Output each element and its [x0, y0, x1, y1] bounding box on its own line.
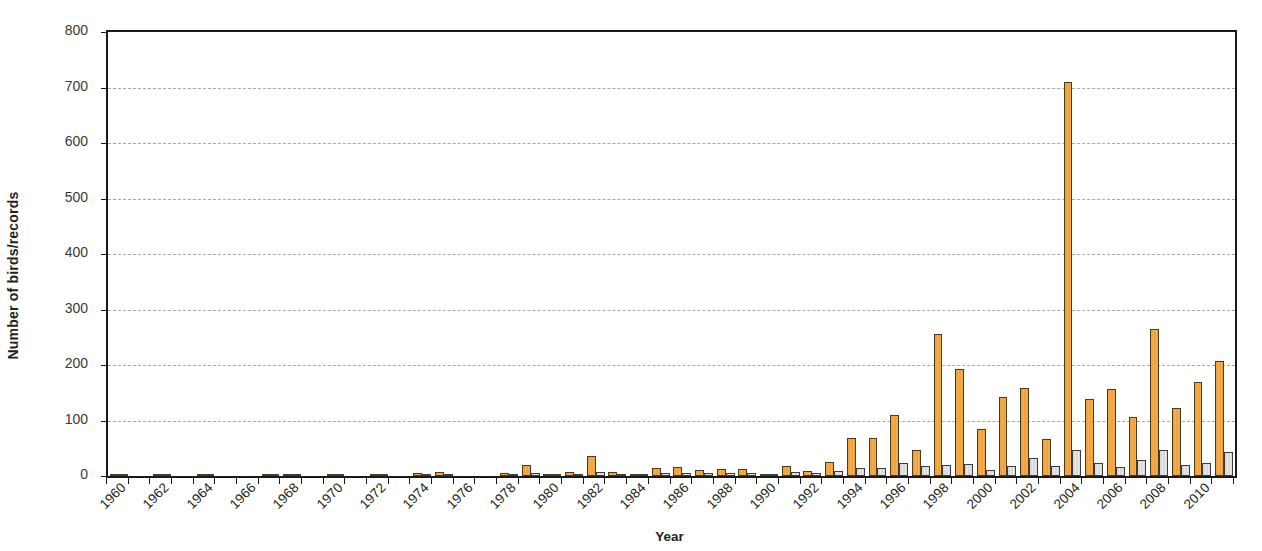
- bar: [1181, 465, 1190, 476]
- x-axis-tick-label: 1972: [357, 480, 389, 512]
- bar: [552, 474, 561, 476]
- bar: [531, 473, 540, 476]
- bar: [119, 474, 128, 476]
- bar: [769, 474, 778, 476]
- bar: [738, 469, 747, 476]
- bar: [1150, 329, 1159, 476]
- y-axis-tick: [101, 310, 108, 311]
- x-axis-tick-label: 1982: [573, 480, 605, 512]
- bar: [1172, 408, 1181, 476]
- bar: [336, 474, 345, 476]
- y-axis-tick: [101, 365, 108, 366]
- bars-layer: [108, 32, 1235, 476]
- x-axis-tick-label: 1988: [704, 480, 736, 512]
- bar: [1159, 450, 1168, 476]
- y-axis-tick-label: 800: [65, 22, 88, 38]
- bar: [1129, 417, 1138, 476]
- bar: [652, 468, 661, 476]
- bar: [1007, 466, 1016, 476]
- x-axis-tick-label: 1978: [487, 480, 519, 512]
- y-axis-tick-label: 200: [65, 355, 88, 371]
- bar: [1029, 458, 1038, 476]
- y-axis-tick-labels: 0100200300400500600700800: [0, 30, 100, 474]
- x-axis-tick-label: 1962: [140, 480, 172, 512]
- bar: [587, 456, 596, 476]
- y-axis-tick: [101, 199, 108, 200]
- bar: [704, 473, 713, 476]
- y-axis-tick: [101, 88, 108, 89]
- bar: [682, 473, 691, 476]
- bar: [673, 467, 682, 476]
- bar: [1224, 452, 1233, 476]
- bar: [1085, 399, 1094, 476]
- y-axis-tick-label: 500: [65, 189, 88, 205]
- x-axis-title: Year: [106, 529, 1233, 544]
- bar: [856, 468, 865, 476]
- y-axis-tick-label: 100: [65, 411, 88, 427]
- bar: [1194, 382, 1203, 476]
- bar: [522, 465, 531, 476]
- bar: [422, 474, 431, 476]
- bar: [565, 472, 574, 476]
- bar: [1215, 361, 1224, 476]
- bar: [1202, 463, 1211, 476]
- bar: [1072, 450, 1081, 476]
- bar: [847, 438, 856, 476]
- bar: [617, 474, 626, 476]
- x-axis-tick-label: 2000: [964, 480, 996, 512]
- bar: [717, 469, 726, 476]
- bar: [977, 429, 986, 476]
- bar: [726, 473, 735, 476]
- x-axis-tick-label: 1966: [227, 480, 259, 512]
- bar: [110, 474, 119, 476]
- bar: [162, 474, 171, 476]
- bar: [782, 466, 791, 476]
- bar: [262, 474, 271, 476]
- bar: [812, 473, 821, 476]
- bar: [890, 415, 899, 476]
- bar: [760, 474, 769, 476]
- bar: [964, 464, 973, 476]
- bar: [608, 472, 617, 476]
- x-axis-tick-label: 1964: [183, 480, 215, 512]
- bar: [912, 450, 921, 476]
- bar: [197, 474, 206, 476]
- bar: [1094, 463, 1103, 476]
- bar: [630, 474, 639, 476]
- bar: [986, 470, 995, 476]
- bar: [435, 472, 444, 476]
- bar: [942, 465, 951, 476]
- x-axis-tick-label: 1974: [400, 480, 432, 512]
- bar: [370, 474, 379, 476]
- bar: [747, 473, 756, 476]
- y-axis-tick: [101, 254, 108, 255]
- x-axis-tick-label: 1980: [530, 480, 562, 512]
- bar: [825, 462, 834, 476]
- bar: [327, 474, 336, 476]
- y-axis-tick: [101, 421, 108, 422]
- bar: [1137, 460, 1146, 476]
- bar: [292, 474, 301, 476]
- bar: [283, 474, 292, 476]
- bar: [877, 468, 886, 476]
- bar: [153, 474, 162, 476]
- bar: [899, 463, 908, 476]
- bar: [639, 474, 648, 476]
- x-axis-tick-label: 2008: [1137, 480, 1169, 512]
- bar: [206, 474, 215, 476]
- bar: [921, 466, 930, 476]
- bar: [1064, 82, 1073, 476]
- bar: [1116, 467, 1125, 476]
- x-axis-tick-label: 2006: [1094, 480, 1126, 512]
- bar: [509, 474, 518, 476]
- bar: [413, 473, 422, 476]
- y-axis-tick-label: 600: [65, 133, 88, 149]
- x-axis-tick-label: 1970: [313, 480, 345, 512]
- bar: [271, 474, 280, 476]
- y-axis-tick: [101, 32, 108, 33]
- x-axis-tick-label: 1986: [660, 480, 692, 512]
- bar: [791, 472, 800, 476]
- bar: [379, 474, 388, 476]
- bar: [869, 438, 878, 476]
- y-axis-tick-label: 700: [65, 78, 88, 94]
